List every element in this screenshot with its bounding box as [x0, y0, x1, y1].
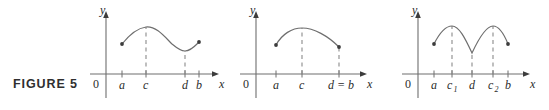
- label-origin: 0: [405, 77, 411, 91]
- figure-caption: FIGURE 5: [13, 77, 78, 91]
- label-c2-subscript: 2: [495, 85, 499, 94]
- endpoint-dot-a: [274, 43, 278, 47]
- label-c2: c: [488, 78, 494, 92]
- label-origin: 0: [243, 77, 249, 91]
- label-c: c: [299, 78, 305, 92]
- label-y-axis: y: [99, 3, 106, 17]
- label-y-axis: y: [249, 3, 256, 17]
- label-d-equals-b: d = b: [328, 78, 354, 92]
- curve-panel-1: [122, 27, 199, 51]
- label-b: b: [196, 78, 202, 92]
- endpoint-dot-a: [432, 42, 436, 46]
- figure-panels: 0 a c d b y x: [86, 0, 549, 110]
- label-x-axis: x: [218, 77, 225, 91]
- endpoint-dot-a: [120, 42, 124, 46]
- graph-panel-2: 0 a c d = b y x: [232, 0, 392, 110]
- label-c1: c: [447, 78, 453, 92]
- x-axis-arrowhead: [212, 71, 219, 77]
- panel-2-svg: 0 a c d = b y x: [232, 0, 392, 110]
- figure-5-container: FIGURE 5: [0, 0, 549, 110]
- label-a: a: [119, 78, 125, 92]
- curve-panel-3: [434, 26, 508, 53]
- label-a: a: [431, 78, 437, 92]
- label-d: d: [182, 78, 189, 92]
- panel-3-svg: 0 a c 1 d c 2 b y x: [392, 0, 549, 110]
- endpoint-dot-b: [197, 40, 201, 44]
- label-c: c: [143, 78, 149, 92]
- label-origin: 0: [93, 77, 99, 91]
- label-a: a: [273, 78, 279, 92]
- label-b: b: [505, 78, 511, 92]
- label-x-axis: x: [529, 77, 536, 91]
- label-c1-subscript: 1: [454, 85, 458, 94]
- endpoint-dot-b: [506, 42, 510, 46]
- graph-panel-3: 0 a c 1 d c 2 b y x: [392, 0, 549, 110]
- endpoint-dot-d-equals-b: [337, 45, 341, 49]
- x-axis-arrowhead: [360, 71, 367, 77]
- panel-1-svg: 0 a c d b y x: [86, 0, 236, 110]
- label-x-axis: x: [366, 77, 373, 91]
- label-d: d: [469, 78, 476, 92]
- graph-panel-1: 0 a c d b y x: [86, 0, 236, 110]
- label-y-axis: y: [411, 3, 418, 17]
- curve-panel-2: [276, 28, 339, 47]
- x-axis-arrowhead: [523, 71, 530, 77]
